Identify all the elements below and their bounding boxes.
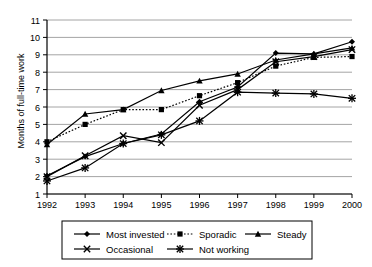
y-axis-tick-label: 1 xyxy=(35,190,40,200)
marker-square xyxy=(177,231,182,236)
line-chart: 1234567891011199219931994199519961997199… xyxy=(0,0,372,267)
x-axis-tick-label: 1996 xyxy=(189,200,209,210)
series-line xyxy=(47,42,352,176)
x-axis-tick-label: 2000 xyxy=(342,200,362,210)
marker-square xyxy=(159,107,164,112)
marker-square xyxy=(235,80,240,85)
marker-square xyxy=(197,93,202,98)
legend-item-not-working[interactable]: Not working xyxy=(167,244,249,255)
y-axis-tick-label: 7 xyxy=(35,85,40,95)
x-axis-tick-label: 1995 xyxy=(151,200,171,210)
x-axis-tick-label: 1997 xyxy=(228,200,248,210)
legend-label: Not working xyxy=(199,244,249,255)
legend-label: Most invested xyxy=(106,229,165,240)
legend-box xyxy=(62,221,312,259)
x-axis-tick-label: 1992 xyxy=(37,200,57,210)
y-axis-tick-label: 9 xyxy=(35,50,40,60)
legend-item-steady[interactable]: Steady xyxy=(245,229,307,240)
y-axis-tick-label: 11 xyxy=(31,16,40,26)
y-axis-tick-label: 2 xyxy=(35,172,40,182)
y-axis-tick-label: 8 xyxy=(35,68,40,78)
marker-square xyxy=(83,122,88,127)
x-axis-tick-label: 1994 xyxy=(113,200,133,210)
y-axis-tick-label: 6 xyxy=(35,103,40,113)
x-axis-tick-label: 1993 xyxy=(75,200,95,210)
y-axis-tick-label: 3 xyxy=(35,155,40,165)
marker-diamond xyxy=(84,231,90,237)
series-most-invested xyxy=(44,39,355,179)
y-axis-tick-label: 10 xyxy=(30,33,40,43)
legend-item-most-invested[interactable]: Most invested xyxy=(74,229,165,240)
legend-label: Steady xyxy=(277,229,307,240)
y-axis-tick-label: 4 xyxy=(35,137,40,147)
chart-container: Months of full-time work 123456789101119… xyxy=(0,0,372,267)
marker-diamond xyxy=(349,39,355,45)
x-axis-tick-label: 1999 xyxy=(304,200,324,210)
y-axis-tick-label: 5 xyxy=(35,120,40,130)
marker-square xyxy=(349,54,354,59)
legend-item-sporadic[interactable]: Sporadic xyxy=(167,229,237,240)
legend-item-occasional[interactable]: Occasional xyxy=(74,244,153,255)
legend-label: Occasional xyxy=(106,244,153,255)
legend-label: Sporadic xyxy=(199,229,237,240)
x-axis-tick-label: 1998 xyxy=(266,200,286,210)
